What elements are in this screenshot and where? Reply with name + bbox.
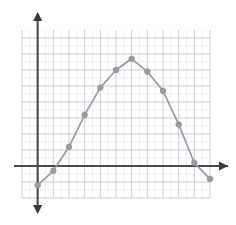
data-point-marker	[207, 176, 213, 182]
x-axis-arrow-right-icon	[219, 161, 228, 170]
data-point-marker	[50, 168, 56, 174]
y-axis-arrow-down-icon	[33, 205, 42, 214]
data-point-marker	[160, 88, 166, 94]
data-point-marker	[144, 69, 150, 75]
data-point-marker	[113, 67, 119, 73]
data-point-marker	[191, 160, 197, 166]
data-point-marker	[66, 144, 72, 150]
data-point-marker	[82, 112, 88, 118]
data-point-marker	[176, 122, 182, 128]
axes	[14, 12, 228, 214]
chart-figure	[0, 0, 236, 225]
y-axis-arrow-up-icon	[33, 12, 42, 21]
data-point-marker	[35, 182, 41, 188]
data-point-marker	[129, 56, 135, 62]
chart-canvas	[0, 0, 236, 225]
data-point-marker	[97, 85, 103, 91]
